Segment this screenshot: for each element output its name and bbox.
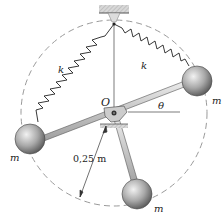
mass-right-label: m [212, 95, 221, 106]
pivot-label: O [101, 96, 110, 109]
radius-label: 0,25 m [73, 153, 106, 164]
mass-left [15, 124, 45, 154]
ceiling-support [99, 5, 129, 26]
mass-right [182, 66, 212, 96]
spring-left-label: k [58, 64, 64, 75]
mass-left-label: m [10, 152, 19, 163]
spring-right-label: k [141, 60, 147, 71]
diagram-canvas: O θ k k m m m 0,25 m [0, 0, 224, 221]
angle-label: θ [158, 100, 164, 111]
rods [34, 79, 192, 191]
spring-right [114, 24, 189, 66]
mass-bottom [122, 179, 152, 209]
rotor-diagram: O θ k k m m m 0,25 m [0, 0, 224, 221]
mass-bottom-label: m [154, 203, 163, 214]
